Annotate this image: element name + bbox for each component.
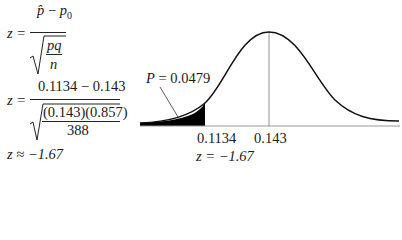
p-value-pointer <box>160 87 178 117</box>
p-symbol: P <box>146 70 155 86</box>
p-value: = 0.0479 <box>155 70 210 86</box>
tick-label-center: 0.143 <box>254 130 287 147</box>
p-value-label: P = 0.0479 <box>146 70 210 87</box>
z-label: z = −1.67 <box>196 148 254 165</box>
tick-label-observed: 0.1134 <box>197 130 236 147</box>
